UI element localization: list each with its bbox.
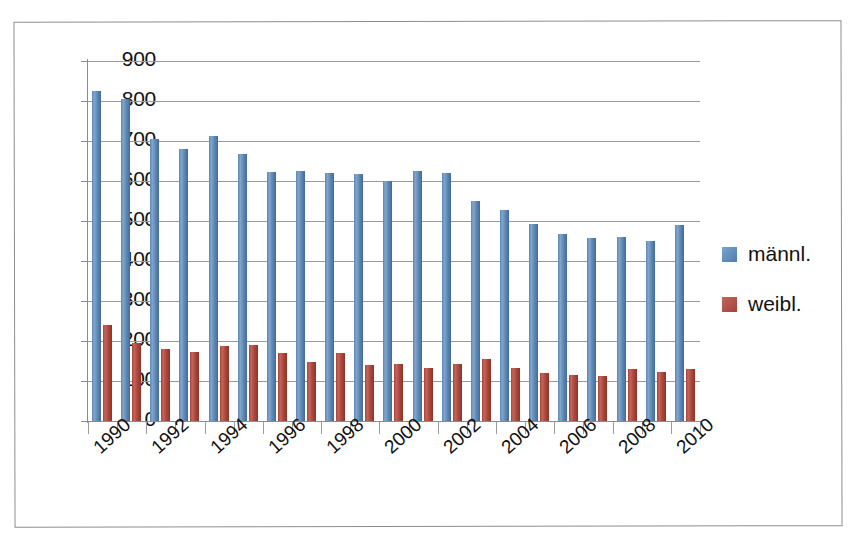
bar-female — [394, 364, 403, 421]
y-axis-tick — [81, 381, 88, 382]
bar-male — [675, 225, 684, 421]
bar-male — [413, 171, 422, 421]
x-axis-tick — [205, 422, 206, 434]
bar-female — [424, 368, 433, 421]
y-axis-tick — [81, 101, 88, 102]
bar-male — [354, 174, 363, 421]
bar-male — [471, 201, 480, 421]
bar-female — [249, 345, 258, 421]
bar-female — [132, 343, 141, 421]
x-axis-tick — [613, 422, 614, 434]
bar-female — [220, 346, 229, 421]
y-axis-tick — [81, 61, 88, 62]
bar-female — [453, 364, 462, 421]
bar-chart: 0100200300400500600700800900 19901992199… — [0, 0, 858, 549]
bar-male — [442, 173, 451, 421]
bar-male — [617, 237, 626, 421]
legend-item-male[interactable]: männl. — [722, 243, 842, 265]
bar-female — [365, 365, 374, 421]
y-axis-tick — [81, 181, 88, 182]
bar-female — [307, 362, 316, 421]
bar-male — [121, 99, 130, 421]
bar-female — [482, 359, 491, 421]
y-axis-line — [87, 59, 88, 423]
bar-female — [569, 375, 578, 421]
bar-male — [325, 173, 334, 421]
bar-male — [92, 91, 101, 421]
x-axis-tick — [263, 422, 264, 434]
bar-female — [336, 353, 345, 421]
bar-male — [267, 172, 276, 421]
bar-male — [150, 139, 159, 421]
bar-male — [500, 210, 509, 421]
x-axis-tick — [379, 422, 380, 434]
bar-female — [103, 325, 112, 421]
bar-male — [179, 149, 188, 421]
x-axis-tick — [438, 422, 439, 434]
chart-legend: männl. weibl. — [722, 243, 842, 343]
bar-male — [587, 238, 596, 421]
bar-female — [190, 352, 199, 421]
x-axis-tick — [554, 422, 555, 434]
bar-female — [686, 369, 695, 421]
bar-male — [238, 154, 247, 421]
bar-male — [558, 234, 567, 421]
y-axis-tick — [81, 421, 88, 422]
y-axis-tick — [81, 261, 88, 262]
gridline — [88, 141, 700, 142]
bar-male — [529, 224, 538, 421]
y-axis-tick — [81, 301, 88, 302]
legend-swatch-female-icon — [722, 297, 737, 312]
bar-female — [628, 369, 637, 421]
bar-female — [511, 368, 520, 421]
x-axis-tick — [88, 422, 89, 434]
y-axis-tick — [81, 341, 88, 342]
y-axis-tick — [81, 221, 88, 222]
x-axis-tick — [146, 422, 147, 434]
y-axis-tick — [81, 141, 88, 142]
gridline — [88, 61, 700, 62]
gridline — [88, 101, 700, 102]
bar-male — [646, 241, 655, 421]
bar-male — [296, 171, 305, 421]
x-axis-tick — [496, 422, 497, 434]
bar-female — [278, 353, 287, 421]
x-axis-tick — [671, 422, 672, 434]
legend-item-female[interactable]: weibl. — [722, 293, 842, 315]
legend-label-female: weibl. — [748, 292, 802, 316]
x-axis-tick — [321, 422, 322, 434]
legend-label-male: männl. — [748, 242, 811, 266]
plot-area — [88, 61, 700, 421]
legend-swatch-male-icon — [722, 247, 737, 262]
bar-female — [657, 372, 666, 421]
bar-female — [540, 373, 549, 421]
bar-male — [209, 136, 218, 421]
bar-male — [383, 181, 392, 421]
bar-female — [598, 376, 607, 421]
bar-female — [161, 349, 170, 421]
